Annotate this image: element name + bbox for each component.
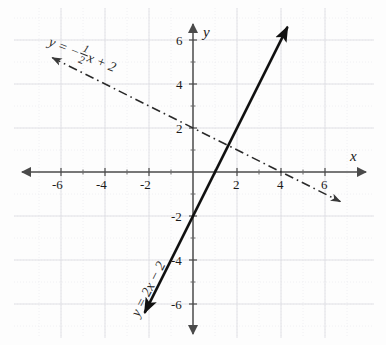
y-tick-label-4: 4 — [176, 77, 183, 93]
y-tick-label-6: 6 — [176, 33, 183, 49]
y-tick-label-2: 2 — [176, 121, 183, 137]
x-tick-label--4: -4 — [96, 177, 107, 193]
y-tick-label--6: -6 — [171, 297, 182, 313]
x-tick-label-2: 2 — [233, 177, 240, 193]
y-tick-label--2: -2 — [171, 209, 182, 225]
x-axis-label: x — [350, 148, 357, 165]
x-tick-label--6: -6 — [52, 177, 63, 193]
y-axis-label: y — [203, 24, 210, 41]
coordinate-graph-figure: -6 -4 -2 2 4 6 6 4 2 -2 -4 -6 y x y = −1… — [0, 0, 386, 345]
x-tick-label-4: 4 — [277, 177, 284, 193]
x-tick-label-6: 6 — [321, 177, 328, 193]
y-tick-label--4: -4 — [171, 253, 182, 269]
x-tick-label--2: -2 — [140, 177, 151, 193]
